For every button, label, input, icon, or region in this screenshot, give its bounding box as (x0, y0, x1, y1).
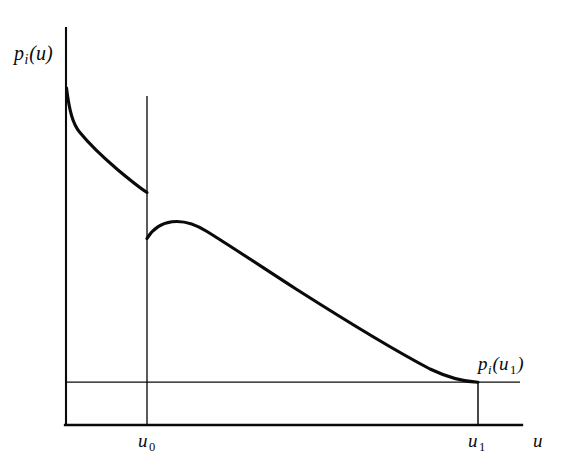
plot-svg (0, 0, 582, 475)
curve-branch-1 (67, 88, 148, 193)
x-tick-label-u1: u1 (468, 430, 485, 455)
x-axis-label: u (533, 430, 543, 452)
pi-u1-subscript: i (488, 362, 492, 377)
pi-u1-annotation-label: pi(u1) (478, 353, 524, 378)
pi-u1-base: p (478, 353, 488, 374)
pi-u1-arg-open: (u (492, 353, 509, 374)
x-tick-u1-base: u (468, 430, 478, 451)
y-axis-label: pi(u) (14, 42, 53, 68)
y-axis-label-argument: (u) (28, 42, 52, 64)
x-tick-u1-subscript: 1 (478, 440, 486, 454)
x-tick-u0-base: u (138, 430, 148, 451)
x-tick-label-u0: u0 (138, 430, 155, 455)
curve-branch-2 (147, 221, 478, 382)
figure-container: pi(u) pi(u1) u0 u1 u (0, 0, 582, 475)
y-axis-label-base: p (14, 42, 24, 64)
pi-u1-arg-close: ) (516, 353, 523, 374)
x-tick-u0-subscript: 0 (148, 440, 156, 454)
